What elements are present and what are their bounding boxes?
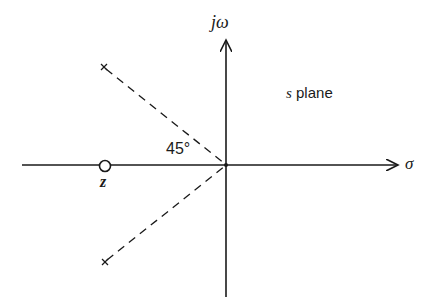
real-axis-label: σ [405, 154, 413, 174]
pole-upper-icon [101, 64, 107, 70]
angle-label: 45° [166, 140, 190, 158]
imaginary-axis-label: jω [211, 12, 229, 33]
pole-lower-icon [102, 259, 108, 265]
origin-point [224, 163, 228, 167]
plane-label: s plane [286, 84, 333, 102]
s-plane-diagram [0, 0, 434, 305]
zero-circle-icon [100, 161, 111, 172]
lower-dashed-line [107, 166, 225, 260]
plane-label-text: plane [296, 84, 333, 101]
zero-label: z [100, 173, 106, 191]
plane-label-variable: s [286, 85, 292, 101]
